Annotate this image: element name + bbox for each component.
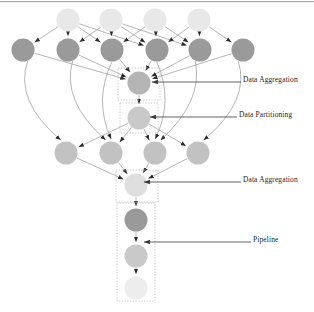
graph-node-aggregate-2[interactable] [125, 174, 148, 197]
graph-node-reducers[interactable] [187, 142, 210, 165]
edge [79, 123, 128, 147]
graph-node-mappers[interactable] [146, 39, 169, 62]
ann-aggregation-bot-label: Data Aggregation [243, 175, 298, 184]
graph-node-reducers[interactable] [55, 142, 78, 165]
edge [118, 162, 127, 173]
edge [161, 61, 197, 140]
graph-node-pipeline[interactable] [125, 209, 148, 232]
graph-node-mappers[interactable] [189, 39, 212, 62]
graph-node-mappers[interactable] [12, 39, 35, 62]
edge [25, 61, 61, 140]
graph-node-sources[interactable] [100, 9, 123, 32]
graph-node-pipeline[interactable] [125, 245, 148, 268]
ann-partitioning-label: Data Partitioning [239, 110, 292, 119]
edge [143, 163, 149, 173]
edge [121, 27, 145, 43]
graph-node-mappers[interactable] [232, 39, 255, 62]
edge [120, 127, 132, 142]
edge [165, 27, 188, 43]
edge [78, 27, 100, 42]
edge [35, 27, 58, 43]
edge [70, 61, 105, 140]
edge [146, 61, 152, 71]
edge [209, 27, 231, 42]
edge [144, 129, 149, 140]
edge [80, 27, 102, 42]
graph-node-aggregate-1[interactable] [128, 72, 151, 95]
graph-node-partition[interactable] [128, 107, 151, 130]
graph-node-reducers[interactable] [144, 142, 167, 165]
edge [120, 59, 130, 72]
edge [168, 27, 189, 42]
edge [124, 27, 146, 42]
graph-node-pipeline[interactable] [125, 277, 148, 300]
graph-node-sources[interactable] [57, 9, 80, 32]
diagram-canvas [0, 0, 314, 312]
ann-aggregation-top-label: Data Aggregation [243, 75, 298, 84]
edge [103, 62, 112, 139]
node-layer [12, 9, 255, 300]
graph-node-reducers[interactable] [100, 142, 123, 165]
graph-node-mappers[interactable] [101, 39, 124, 62]
ann-pipeline-label: Pipeline [253, 235, 278, 244]
graph-node-sources[interactable] [144, 9, 167, 32]
edge [204, 61, 241, 140]
graph-node-sources[interactable] [188, 9, 211, 32]
graph-node-mappers[interactable] [57, 39, 80, 62]
